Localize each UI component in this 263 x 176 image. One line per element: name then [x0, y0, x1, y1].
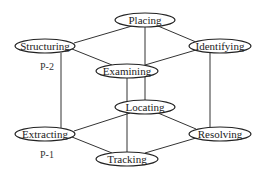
annotations-group: P-2P-1 — [40, 61, 54, 160]
node-locating: Locating — [115, 100, 175, 114]
edge-extracting-tracking — [72, 137, 112, 153]
annotation-p2: P-2 — [40, 61, 54, 72]
edge-placing-structuring — [74, 26, 132, 43]
edge-locating-resolving — [158, 113, 196, 129]
edge-structuring-examining — [72, 49, 112, 65]
node-examining: Examining — [96, 64, 158, 78]
edges-group — [61, 26, 210, 153]
annotation-p1: P-1 — [40, 149, 54, 160]
node-placing: Placing — [115, 13, 175, 27]
node-resolving: Resolving — [189, 127, 251, 141]
node-label: Identifying — [196, 40, 245, 52]
edge-resolving-tracking — [145, 138, 196, 153]
edge-identifying-examining — [145, 50, 196, 65]
node-label: Extracting — [22, 128, 68, 140]
node-structuring: Structuring — [15, 39, 75, 53]
node-tracking: Tracking — [96, 152, 158, 166]
nodes-group: PlacingStructuringIdentifyingExaminingLo… — [15, 13, 251, 166]
node-extracting: Extracting — [15, 127, 75, 141]
node-label: Locating — [125, 101, 165, 113]
edge-locating-extracting — [74, 113, 130, 131]
node-label: Placing — [129, 14, 162, 26]
node-label: Examining — [103, 65, 152, 77]
node-label: Resolving — [198, 128, 243, 140]
node-label: Tracking — [107, 153, 147, 165]
node-label: Structuring — [20, 40, 70, 52]
lattice-diagram: PlacingStructuringIdentifyingExaminingLo… — [0, 0, 263, 176]
edge-placing-identifying — [158, 26, 196, 42]
node-identifying: Identifying — [189, 39, 251, 53]
